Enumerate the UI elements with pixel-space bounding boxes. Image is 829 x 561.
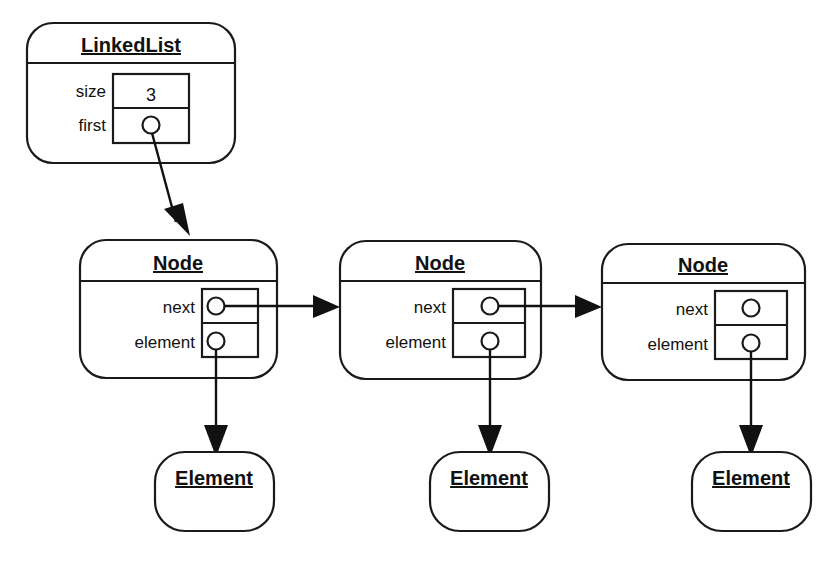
node-object-1[interactable]: Node next element (80, 240, 277, 378)
element-2-title: Element (450, 467, 528, 489)
node-3-element-reference-dot (743, 335, 760, 352)
linkedlist-field-label-size: size (76, 82, 106, 101)
object-diagram-canvas: LinkedList size first 3 Node next elemen… (0, 0, 829, 561)
node-2-field-label-element: element (386, 333, 447, 352)
arrow-first-to-node1-head (164, 203, 190, 236)
element-1-box (155, 452, 274, 531)
node-3-field-label-next: next (676, 300, 708, 319)
node-3-title: Node (678, 254, 728, 276)
node-1-title: Node (153, 252, 203, 274)
node-1-element-reference-dot (208, 333, 225, 350)
node-1-next-reference-dot (208, 298, 225, 315)
node-object-3[interactable]: Node next element (602, 244, 805, 380)
node-1-field-label-element: element (135, 333, 196, 352)
linkedlist-field-value-size: 3 (146, 85, 156, 105)
element-object-3[interactable]: Element (692, 452, 811, 531)
element-1-title: Element (175, 467, 253, 489)
node-2-next-reference-dot (482, 298, 499, 315)
node-2-element-reference-dot (482, 333, 499, 350)
arrow-node2-next-to-node3-head (575, 295, 602, 318)
element-3-box (692, 452, 811, 531)
linkedlist-title: LinkedList (81, 34, 181, 56)
node-3-field-label-element: element (648, 335, 709, 354)
arrow-node1-next-to-node2-head (313, 295, 340, 318)
linked-list-diagram: LinkedList size first 3 Node next elemen… (0, 0, 829, 561)
element-object-1[interactable]: Element (155, 452, 274, 531)
node-2-field-label-next: next (414, 298, 446, 317)
node-1-field-label-next: next (163, 298, 195, 317)
element-2-box (430, 452, 549, 531)
element-3-title: Element (712, 467, 790, 489)
element-object-2[interactable]: Element (430, 452, 549, 531)
node-2-title: Node (415, 252, 465, 274)
node-object-2[interactable]: Node next element (340, 241, 541, 379)
linkedlist-first-reference-dot (143, 117, 160, 134)
linkedlist-field-label-first: first (79, 116, 107, 135)
linkedlist-object[interactable]: LinkedList size first 3 (27, 23, 235, 163)
node-3-next-reference-dot (743, 300, 760, 317)
